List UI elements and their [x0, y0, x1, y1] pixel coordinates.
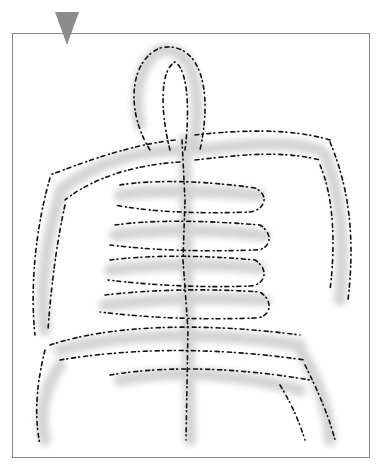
sketch-artwork	[0, 0, 385, 470]
triangle-marker-icon	[55, 12, 79, 45]
wash-layer	[42, 50, 342, 440]
